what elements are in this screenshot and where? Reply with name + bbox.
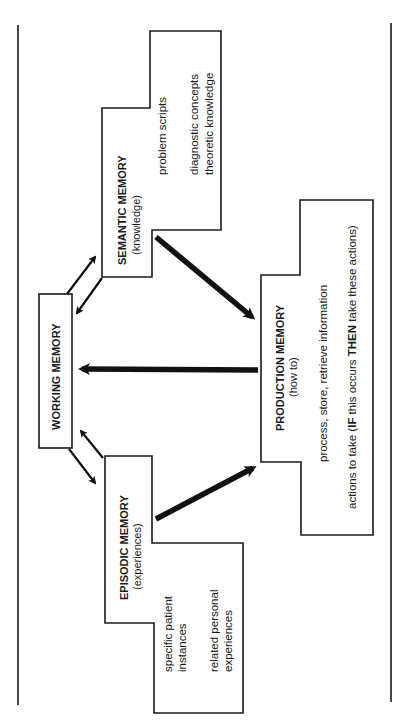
arrow-semantic-to-working bbox=[77, 278, 102, 313]
episodic-item-related-personal: related personal bbox=[208, 590, 220, 672]
episodic-title: EPISODIC MEMORY bbox=[118, 495, 130, 600]
episodic-item-experiences: experiences bbox=[222, 610, 234, 672]
episodic-item-specific-patient: specific patient bbox=[162, 595, 174, 672]
arrow-episodic-to-production bbox=[156, 468, 253, 519]
production-title: PRODUCTION MEMORY bbox=[274, 304, 286, 431]
semantic-item-theoretic-knowledge: theoretic knowledge bbox=[203, 73, 215, 175]
rule-middle: this occurs bbox=[346, 356, 358, 417]
arrow-production-to-working bbox=[82, 369, 258, 370]
semantic-title: SEMANTIC MEMORY bbox=[116, 155, 128, 265]
episodic-memory-node: EPISODIC MEMORY (experiences) specific p… bbox=[105, 456, 243, 713]
production-item-process: process, store, retrieve information bbox=[317, 285, 329, 462]
episodic-subtitle: (experiences) bbox=[131, 523, 143, 590]
working-title: WORKING MEMORY bbox=[50, 323, 62, 430]
production-rule: actions to take (IF this occurs THEN tak… bbox=[346, 225, 358, 509]
rule-suffix: take these actions) bbox=[346, 225, 358, 325]
semantic-item-diagnostic-concepts: diagnostic concepts bbox=[188, 74, 200, 175]
rule-prefix: actions to take ( bbox=[346, 428, 358, 509]
working-memory-node: WORKING MEMORY bbox=[39, 294, 72, 448]
arrow-working-to-semantic bbox=[67, 257, 95, 294]
rule-if: IF bbox=[346, 418, 358, 428]
arrow-semantic-to-production bbox=[156, 237, 252, 317]
memory-diagram: SEMANTIC MEMORY (knowledge) problem scri… bbox=[0, 0, 401, 726]
episodic-item-instances: instances bbox=[176, 623, 188, 672]
arrow-working-to-episodic bbox=[69, 449, 95, 483]
semantic-subtitle: (knowledge) bbox=[130, 195, 142, 255]
production-subtitle: (how to) bbox=[287, 357, 299, 397]
semantic-item-problem-scripts: problem scripts bbox=[156, 97, 168, 175]
rule-then: THEN bbox=[346, 325, 358, 356]
arrow-episodic-to-working bbox=[81, 431, 103, 458]
production-memory-node: PRODUCTION MEMORY (how to) process, stor… bbox=[261, 200, 373, 535]
